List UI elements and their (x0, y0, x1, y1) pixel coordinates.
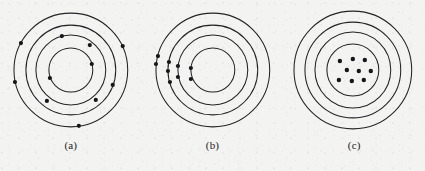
panel-b: (b) (142, 0, 284, 171)
panel-c: (c) (283, 0, 425, 171)
electron-dot (121, 44, 125, 48)
electron-dot (154, 62, 158, 66)
electron-dot (363, 58, 367, 62)
panel-b-canvas (142, 0, 284, 142)
electron-dot (369, 69, 373, 73)
panel-a: (a) (0, 0, 142, 171)
electron-dot (166, 69, 170, 73)
electron-dot (111, 83, 115, 87)
panel-b-label: (b) (142, 139, 284, 151)
shell-ring-2 (178, 35, 248, 105)
electron-dot (188, 77, 192, 81)
panel-c-label: (c) (283, 139, 425, 151)
electron-dot (13, 80, 17, 84)
shell-ring-4 (294, 11, 412, 129)
shell-ring-1 (191, 48, 235, 92)
panel-c-electrons (337, 57, 373, 83)
electron-dot (77, 124, 81, 128)
electron-dot (60, 34, 64, 38)
panel-c-canvas (283, 0, 425, 142)
electron-dot (175, 64, 179, 68)
electron-dot (168, 80, 172, 84)
shell-ring-3 (26, 25, 116, 115)
figure-concentric-shells: (a) (b) (c) (0, 0, 425, 171)
electron-dot (88, 43, 92, 47)
shell-ring-4 (14, 13, 128, 127)
shell-ring-1 (49, 48, 93, 92)
electron-dot (357, 69, 361, 73)
electron-dot (94, 98, 98, 102)
shell-ring-2 (315, 32, 391, 108)
shell-ring-3 (305, 22, 401, 118)
panel-a-canvas (0, 0, 142, 142)
panel-a-rings (14, 13, 128, 127)
electron-dot (90, 62, 94, 66)
panel-b-electrons (154, 54, 193, 84)
electron-dot (351, 57, 355, 61)
electron-dot (338, 59, 342, 63)
electron-dot (19, 41, 23, 45)
electron-dot (188, 66, 192, 70)
electron-dot (175, 75, 179, 79)
electron-dot (362, 78, 366, 82)
shell-ring-4 (156, 13, 270, 127)
electron-dot (337, 78, 341, 82)
shell-ring-3 (168, 25, 258, 115)
panel-a-label: (a) (0, 139, 142, 151)
panel-c-rings (294, 11, 412, 129)
electron-dot (156, 54, 160, 58)
electron-dot (345, 68, 349, 72)
electron-dot (350, 79, 354, 83)
shell-ring-2 (36, 35, 106, 105)
electron-dot (167, 60, 171, 64)
electron-dot (45, 99, 49, 103)
electron-dot (48, 76, 52, 80)
panel-b-rings (156, 13, 270, 127)
